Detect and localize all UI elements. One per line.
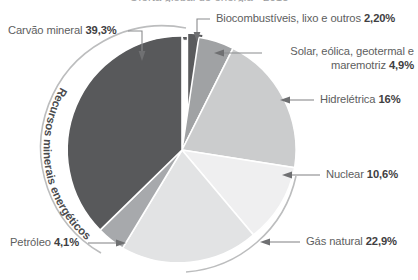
label-nuclear-name: Nuclear (326, 168, 367, 180)
label-hidreletrica-value: 16% (378, 93, 400, 105)
label-nuclear-value: 10,6% (367, 168, 398, 180)
label-petroleo: Petróleo 4,1% (10, 236, 79, 250)
label-solar-name: maremotriz (331, 59, 389, 71)
label-carvao-value: 39,3% (85, 24, 116, 36)
label-solar-value: 4,9% (389, 59, 414, 71)
label-biocombustiveis-name: Biocombustíveis, lixo e outros (216, 12, 364, 24)
label-hidreletrica-name: Hidrelétrica (320, 93, 378, 105)
label-petroleo-name: Petróleo (10, 236, 54, 248)
label-nuclear: Nuclear 10,6% (326, 168, 398, 182)
label-gas-name: Gás natural (306, 235, 366, 247)
label-solar-line1: Solar, eólica, geotermal e (290, 45, 414, 57)
label-petroleo-value: 4,1% (54, 236, 79, 248)
label-gas-value: 22,9% (366, 235, 397, 247)
label-biocombustiveis: Biocombustíveis, lixo e outros 2,20% (216, 12, 395, 26)
label-biocombustiveis-value: 2,20% (364, 12, 395, 24)
label-gas-natural: Gás natural 22,9% (306, 235, 397, 249)
label-hidreletrica: Hidrelétrica 16% (320, 93, 400, 107)
chart-stage: Oferta global de energia - 2015 (0, 0, 418, 280)
label-solar: Solar, eólica, geotermal e maremotriz 4,… (266, 45, 414, 72)
label-carvao-mineral: Carvão mineral 39,3% (8, 24, 117, 38)
leader-line-gas (260, 239, 300, 246)
label-carvao-name: Carvão mineral (8, 24, 85, 36)
